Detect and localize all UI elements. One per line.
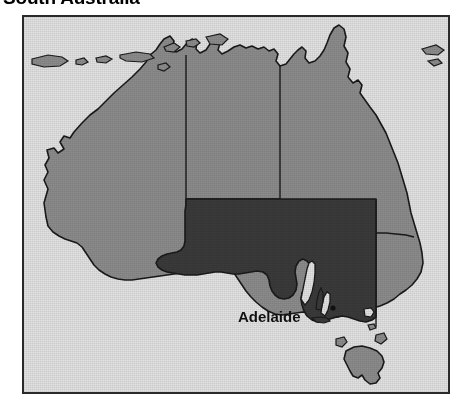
king-island xyxy=(336,337,347,347)
tasmania-shape xyxy=(344,346,384,384)
island-north-3 xyxy=(96,56,112,63)
island-north-8 xyxy=(206,34,228,45)
southeast-coastal-detail xyxy=(364,308,374,317)
page-title: South Australia xyxy=(3,0,140,7)
kangaroo-island xyxy=(312,317,330,323)
port-phillip-bay xyxy=(364,308,374,317)
flinders-island xyxy=(375,333,387,344)
australia-map xyxy=(24,17,448,392)
bass-strait-islands xyxy=(336,324,387,347)
map-frame: Adelaide xyxy=(22,15,450,394)
adelaide-city-marker xyxy=(330,305,335,310)
island-north-6 xyxy=(186,39,200,47)
region-tasmania xyxy=(344,346,384,384)
island-north-1 xyxy=(32,55,68,67)
island-north-2 xyxy=(76,58,88,65)
island-png-1 xyxy=(422,45,444,55)
island-small-1 xyxy=(368,324,376,330)
island-png-2 xyxy=(428,59,442,66)
adelaide-city-label: Adelaide xyxy=(238,308,301,325)
